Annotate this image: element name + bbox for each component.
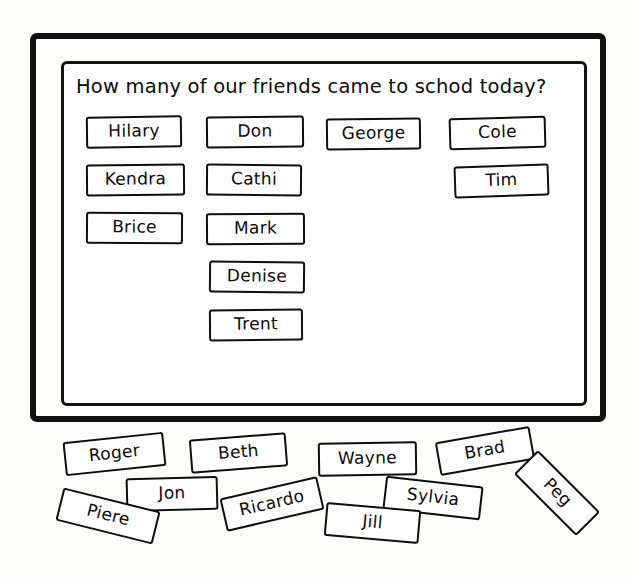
loose-name-card-beth[interactable]: Beth (189, 432, 288, 474)
name-card-cathi[interactable]: Cathi (206, 164, 302, 197)
loose-name-card-label: Wayne (338, 449, 397, 468)
name-card-cole[interactable]: Cole (449, 116, 547, 151)
bulletin-board-inner-frame: How many of our friends came to schod to… (61, 61, 587, 406)
loose-name-card-label: Peg (540, 475, 575, 510)
name-card-george[interactable]: George (326, 117, 421, 150)
name-card-don[interactable]: Don (206, 115, 304, 148)
loose-name-card-jill[interactable]: Jill (324, 502, 422, 544)
name-card-label: Mark (234, 219, 277, 237)
name-card-hilary[interactable]: Hilary (86, 115, 182, 148)
name-card-brice[interactable]: Brice (86, 212, 183, 245)
loose-name-card-label: Jon (158, 484, 186, 503)
page-title: How many of our friends came to schod to… (76, 75, 576, 98)
name-card-label: Hilary (108, 122, 160, 141)
name-card-denise[interactable]: Denise (209, 260, 305, 293)
name-card-trent[interactable]: Trent (209, 309, 303, 342)
loose-name-card-label: Roger (88, 442, 141, 465)
loose-name-card-label: Brad (463, 438, 507, 463)
name-card-label: George (341, 124, 405, 143)
loose-name-card-ricardo[interactable]: Ricardo (219, 476, 324, 532)
loose-name-card-label: Ricardo (238, 487, 307, 519)
name-card-mark[interactable]: Mark (206, 213, 305, 246)
name-card-label: Brice (112, 218, 157, 236)
loose-name-card-roger[interactable]: Roger (62, 432, 166, 476)
loose-name-card-peg[interactable]: Peg (514, 450, 600, 536)
loose-name-card-label: Jill (362, 513, 384, 533)
loose-name-card-wayne[interactable]: Wayne (318, 441, 417, 476)
name-card-label: Kendra (105, 170, 167, 188)
loose-name-card-label: Sylvia (406, 486, 460, 510)
name-card-label: Tim (485, 171, 518, 190)
name-card-label: Cole (478, 123, 517, 142)
loose-name-card-label: Beth (217, 442, 259, 463)
name-card-label: Don (237, 122, 272, 140)
name-card-label: Denise (227, 267, 287, 285)
name-card-kendra[interactable]: Kendra (86, 164, 185, 197)
name-card-label: Trent (234, 315, 278, 333)
name-card-tim[interactable]: Tim (453, 163, 549, 198)
loose-name-card-label: Piere (85, 502, 132, 530)
name-card-label: Cathi (231, 170, 277, 188)
bulletin-board-frame: How many of our friends came to schod to… (30, 33, 606, 422)
attendance-board-screen: How many of our friends came to schod to… (0, 0, 633, 581)
